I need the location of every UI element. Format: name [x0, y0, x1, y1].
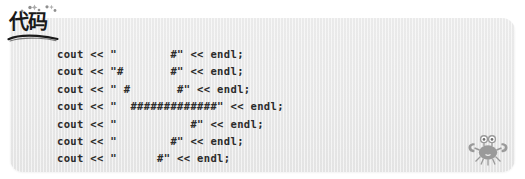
- code-line: cout << " #############" << endl;: [57, 98, 497, 115]
- badge-label: 代码: [9, 11, 47, 33]
- hand-drawn-underline: [7, 34, 59, 42]
- code-block: cout << " #" << endl; cout << "# #" << e…: [57, 46, 497, 168]
- code-line: cout << " #" << endl;: [57, 46, 497, 63]
- code-line: cout << " # #" << endl;: [57, 81, 497, 98]
- code-line: cout << " #" << endl;: [57, 116, 497, 133]
- crab-illustration: [466, 134, 510, 170]
- code-line: cout << " #" << endl;: [57, 150, 497, 167]
- screenshot-stage: cout << " #" << endl; cout << "# #" << e…: [0, 0, 525, 179]
- code-line: cout << " #" << endl;: [57, 133, 497, 150]
- crab-icon: [466, 134, 510, 170]
- code-badge: 代码: [6, 4, 62, 44]
- code-listing-panel: cout << " #" << endl; cout << "# #" << e…: [10, 18, 515, 172]
- code-line: cout << "# #" << endl;: [57, 63, 497, 80]
